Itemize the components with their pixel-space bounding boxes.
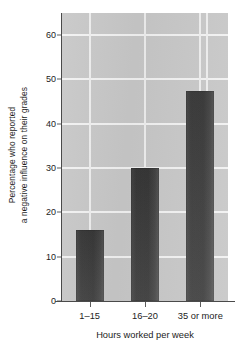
x-axis-tick-label: 16–20	[132, 311, 158, 321]
plot-area	[62, 13, 228, 301]
y-axis-tick-label: 30	[34, 163, 56, 173]
x-axis-tick-label: 1–15	[79, 311, 100, 321]
x-axis-title: Hours worked per week	[62, 330, 228, 340]
bar	[131, 168, 159, 301]
x-axis-tick-mark	[145, 302, 146, 307]
y-axis-tick-label: 10	[34, 252, 56, 262]
bar	[76, 230, 104, 301]
y-axis-title-line-2: a negative influence on their grades	[18, 87, 30, 223]
x-axis-tick-label: 35 or more	[178, 311, 223, 321]
y-axis-tick-labels: 0102030405060	[34, 0, 56, 310]
x-axis-tick-mark	[200, 302, 201, 307]
y-axis-line	[61, 13, 62, 302]
bar	[186, 91, 214, 301]
y-axis-title-text: Percentage who reported a negative influ…	[7, 87, 30, 223]
y-axis-tick-label: 40	[34, 119, 56, 129]
y-axis-title-line-1: Percentage who reported	[7, 87, 19, 223]
y-axis-tick-label: 50	[34, 74, 56, 84]
y-axis-title: Percentage who reported a negative influ…	[0, 0, 36, 310]
y-axis-tick-label: 0	[34, 296, 56, 306]
bar-chart-figure: Percentage who reported a negative influ…	[0, 0, 244, 354]
y-axis-tick-label: 60	[34, 30, 56, 40]
x-axis-tick-mark	[90, 302, 91, 307]
y-axis-tick-label: 20	[34, 207, 56, 217]
